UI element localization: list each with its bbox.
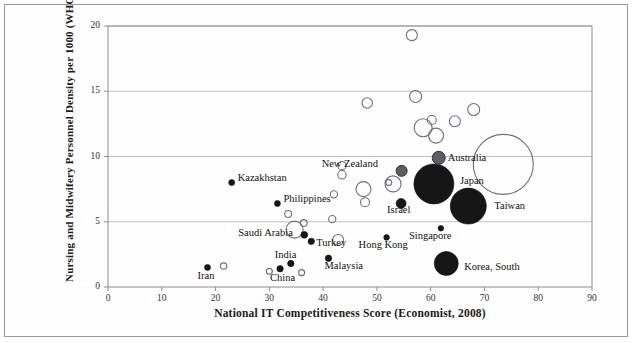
bubble-japan bbox=[414, 164, 454, 204]
bubble-unlabeled bbox=[338, 171, 346, 179]
x-axis-title: National IT Competitiveness Score (Econo… bbox=[108, 307, 592, 319]
y-axis-title: Nursing and Midwifery Personnel Density … bbox=[62, 20, 76, 282]
bubble-unlabeled bbox=[385, 176, 401, 192]
point-label-new-zealand: New Zealand bbox=[322, 158, 378, 169]
x-tick-label-80: 80 bbox=[526, 293, 550, 303]
bubble-unlabeled bbox=[386, 180, 392, 186]
bubble-india bbox=[288, 260, 294, 266]
point-label-turkey: Turkey bbox=[316, 237, 346, 248]
bubble-unlabeled bbox=[410, 90, 422, 102]
point-label-taiwan: Taiwan bbox=[494, 200, 525, 211]
bubble-unlabeled bbox=[220, 263, 226, 269]
bubble-turkey bbox=[308, 238, 314, 244]
bubble-unlabeled bbox=[285, 211, 292, 218]
x-tick-label-10: 10 bbox=[150, 293, 174, 303]
point-label-israel: Israel bbox=[387, 204, 410, 215]
bubble-saudi-arabia bbox=[301, 231, 308, 238]
point-label-hong-kong: Hong Kong bbox=[359, 239, 408, 250]
x-tick-label-20: 20 bbox=[204, 293, 228, 303]
bubble-korea-south bbox=[434, 252, 458, 276]
x-tick-label-50: 50 bbox=[365, 293, 389, 303]
bubble-unlabeled bbox=[361, 198, 370, 207]
y-tick-label-5: 5 bbox=[82, 216, 100, 226]
y-tick-label-10: 10 bbox=[82, 151, 100, 161]
y-tick-label-15: 15 bbox=[82, 85, 100, 95]
bubble-unlabeled bbox=[330, 191, 337, 198]
bubble-unlabeled bbox=[300, 220, 307, 227]
x-tick-label-40: 40 bbox=[311, 293, 335, 303]
bubble-unlabeled bbox=[356, 182, 371, 197]
bubble-taiwan bbox=[450, 188, 486, 224]
bubble-unlabeled bbox=[299, 270, 305, 276]
y-tick-label-0: 0 bbox=[82, 281, 100, 291]
x-tick-label-70: 70 bbox=[472, 293, 496, 303]
x-tick-label-0: 0 bbox=[96, 293, 120, 303]
bubble-unlabeled bbox=[414, 119, 432, 137]
point-label-iran: Iran bbox=[197, 270, 214, 281]
point-label-japan: Japan bbox=[460, 175, 484, 186]
point-label-malaysia: Malaysia bbox=[324, 260, 363, 271]
bubble-unlabeled bbox=[468, 104, 480, 116]
x-tick-label-30: 30 bbox=[257, 293, 281, 303]
point-label-india: India bbox=[275, 249, 297, 260]
y-tick-label-20: 20 bbox=[82, 20, 100, 30]
bubble-philippines bbox=[274, 200, 280, 206]
bubble-unlabeled bbox=[449, 116, 460, 127]
bubble-new-zealand bbox=[396, 165, 407, 176]
point-label-china: China bbox=[270, 272, 295, 283]
bubble-kazakhstan bbox=[229, 180, 235, 186]
bubble-australia bbox=[432, 151, 445, 164]
point-label-korea-south: Korea, South bbox=[464, 261, 519, 272]
point-label-philippines: Philippines bbox=[283, 193, 330, 204]
bubble-unlabeled bbox=[362, 98, 372, 108]
chart-plot-area bbox=[0, 0, 634, 343]
point-label-saudi-arabia: Saudi Arabia bbox=[238, 227, 293, 238]
x-tick-label-60: 60 bbox=[419, 293, 443, 303]
gridlines bbox=[108, 26, 592, 222]
x-tick-label-90: 90 bbox=[580, 293, 604, 303]
bubble-unlabeled bbox=[429, 128, 444, 143]
point-label-australia: Australia bbox=[448, 152, 487, 163]
point-label-singapore: Singapore bbox=[409, 230, 452, 241]
bubble-unlabeled bbox=[406, 30, 417, 41]
point-label-kazakhstan: Kazakhstan bbox=[238, 172, 287, 183]
